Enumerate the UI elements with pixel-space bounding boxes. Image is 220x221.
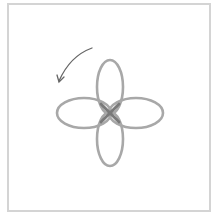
rose-diagram — [0, 0, 220, 221]
rotation-arrow-icon — [57, 48, 92, 82]
petal-right — [109, 98, 163, 128]
petal-left — [57, 98, 111, 128]
